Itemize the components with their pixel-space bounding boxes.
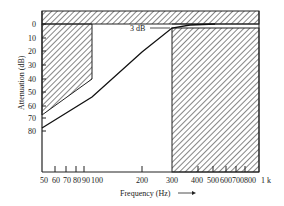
3db-annotation: 3 dB	[130, 24, 145, 33]
passband-hatch-region	[42, 11, 259, 24]
svg-text:600: 600	[220, 176, 232, 185]
x-tick-labels: 50 60 70 80 90 100 200 300 400 500 600 7…	[40, 176, 271, 185]
svg-text:1 k: 1 k	[261, 176, 271, 185]
svg-text:0: 0	[32, 20, 36, 29]
svg-text:80: 80	[73, 176, 81, 185]
x-axis-title: Frequency (Hz)	[120, 189, 171, 198]
svg-text:10: 10	[28, 34, 36, 43]
svg-text:500: 500	[207, 176, 219, 185]
svg-text:700: 700	[232, 176, 244, 185]
svg-text:20: 20	[28, 47, 36, 56]
svg-text:70: 70	[63, 176, 71, 185]
svg-text:70: 70	[28, 114, 36, 123]
svg-text:50: 50	[40, 176, 48, 185]
svg-text:40: 40	[28, 75, 36, 84]
y-tick-labels: 0 10 20 30 40 50 60 70 80	[28, 20, 36, 136]
svg-text:800: 800	[244, 176, 256, 185]
svg-text:60: 60	[28, 102, 36, 111]
svg-text:400: 400	[191, 176, 203, 185]
svg-text:60: 60	[52, 176, 60, 185]
svg-text:30: 30	[28, 61, 36, 70]
svg-text:80: 80	[28, 127, 36, 136]
svg-text:100: 100	[91, 176, 103, 185]
svg-text:300: 300	[166, 176, 178, 185]
svg-text:50: 50	[28, 88, 36, 97]
filter-response-chart: 3 dB 0 10 20 30 40 50 60 70 80 50	[0, 0, 284, 206]
high-stopband-hatch-region	[172, 28, 259, 172]
y-axis-title: Attenuation (dB)	[17, 55, 26, 110]
svg-text:90: 90	[82, 176, 90, 185]
svg-text:200: 200	[136, 176, 148, 185]
